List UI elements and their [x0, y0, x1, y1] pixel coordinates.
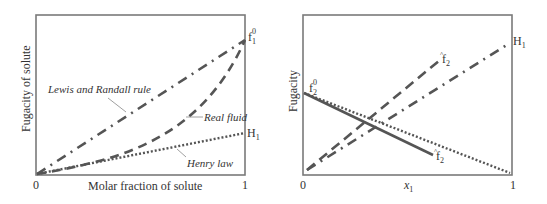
real-fluid-label: Real fluid — [203, 111, 248, 123]
henry-law-arrow — [177, 149, 186, 157]
right-x-tick-0: 0 — [300, 178, 306, 192]
f2-dotted-line — [304, 93, 510, 173]
left-y-axis-label: Fugacity of solute — [19, 45, 33, 132]
f1-0-label: f10 — [248, 27, 256, 46]
left-plot-frame — [36, 15, 245, 175]
right-plot-frame — [303, 15, 512, 175]
fugacity-diagrams: Lewis and Randall rule Real fluid Henry … — [0, 0, 547, 204]
f2-0-label: f20 — [309, 78, 317, 97]
left-panel: Lewis and Randall rule Real fluid Henry … — [19, 15, 260, 193]
h1-label-left: H1 — [247, 126, 260, 142]
f2-hat-dashed-line — [307, 60, 440, 170]
left-x-tick-1: 1 — [242, 178, 248, 192]
right-y-axis-label: Fugacity — [286, 70, 300, 112]
henry-law-label: Henry law — [186, 157, 234, 169]
left-x-tick-0: 0 — [33, 178, 39, 192]
right-x-tick-1: 1 — [510, 178, 516, 192]
h1-label-right: H1 — [513, 34, 526, 50]
right-panel: f20 f2 ^ f2 ^ H1 0 1 x1 Fugacity — [286, 15, 526, 194]
lewis-randall-label: Lewis and Randall rule — [47, 83, 151, 95]
right-x-axis-label: x1 — [403, 178, 413, 194]
lewis-randall-arrow — [108, 98, 126, 112]
left-x-axis-label: Molar fraction of solute — [88, 179, 202, 193]
